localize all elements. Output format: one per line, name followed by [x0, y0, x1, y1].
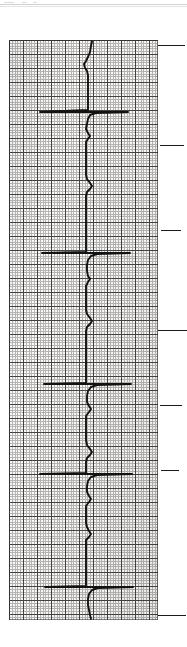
scan-speck	[118, 196, 120, 198]
tick-1	[158, 45, 185, 46]
tick-3	[161, 230, 181, 231]
ecg-graph-paper	[9, 40, 158, 620]
ecg-scan-page	[0, 0, 187, 647]
tick-5	[160, 405, 182, 406]
tick-6	[161, 470, 179, 471]
scan-edge-line-1	[0, 4, 187, 5]
ecg-waveform-trace	[9, 40, 158, 620]
scan-speck	[33, 2, 37, 3]
scan-speck	[140, 318, 142, 320]
scan-speck	[4, 2, 14, 3]
tick-4	[158, 330, 187, 331]
tick-2	[160, 145, 184, 146]
scan-edge-line-2	[0, 6, 187, 7]
tick-7	[158, 615, 186, 616]
ecg-trace-path	[40, 41, 133, 619]
scan-speck	[22, 2, 27, 3]
